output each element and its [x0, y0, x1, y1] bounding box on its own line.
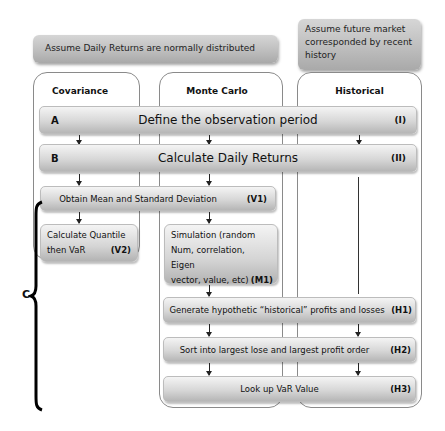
column-title-covariance: Covariance [52, 86, 139, 96]
step-b-label: Calculate Daily Returns [40, 151, 416, 165]
assumption-normal-returns-text: Assume Daily Returns are normally distri… [45, 43, 255, 53]
step-h1-generate-pl: Generate hypothetic “historical” profits… [163, 297, 416, 323]
column-title-historical: Historical [298, 86, 421, 96]
step-h3-code: (H3) [390, 384, 411, 394]
step-h3-label: Look up VaR Value [144, 384, 415, 394]
step-v2-line2: then VaR [47, 245, 85, 255]
column-title-monte-carlo: Monte Carlo [152, 86, 282, 96]
arrow-down-icon [359, 135, 360, 144]
step-m1-simulation: Simulation (random Num, correlation, Eig… [164, 224, 278, 284]
arrow-down-icon [358, 324, 359, 336]
step-h2-label: Sort into largest lose and largest profi… [134, 345, 415, 355]
arrow-down-icon [209, 363, 210, 375]
arrow-down-icon [79, 212, 80, 223]
arrow-down-icon [209, 135, 210, 144]
brace-label-c: C [22, 288, 30, 301]
arrow-down-icon [209, 212, 210, 223]
step-m1-line2: Num, correlation, Eigen [171, 243, 271, 273]
arrow-down-icon [79, 174, 80, 185]
step-v1-code: (V1) [247, 194, 267, 204]
step-m1-code: (M1) [251, 273, 273, 288]
step-h2-sort: Sort into largest lose and largest profi… [163, 337, 416, 362]
arrow-down-icon [358, 363, 359, 375]
step-m1-line3: vector, value, etc) [171, 275, 249, 285]
step-h2-code: (H2) [390, 345, 411, 355]
curly-brace-icon [28, 200, 48, 412]
step-h3-lookup-var: Look up VaR Value (H3) [163, 376, 416, 402]
arrow-down-icon [209, 324, 210, 336]
step-a-label: Define the observation period [40, 113, 416, 127]
step-a-code: (I) [394, 115, 406, 125]
assumption-normal-returns: Assume Daily Returns are normally distri… [33, 35, 278, 63]
step-v2-quantile-var: Calculate Quantile then VaR (V2) [40, 224, 138, 262]
step-m1-line1: Simulation (random [171, 228, 271, 243]
step-b-code: (II) [391, 153, 406, 163]
arrow-down-icon [209, 285, 210, 296]
assumption-historical-text: Assume future market corresponded by rec… [305, 23, 415, 62]
step-v1-mean-std: Obtain Mean and Standard Deviation (V1) [40, 186, 276, 211]
step-h1-label: Generate hypothetic “historical” profits… [139, 305, 415, 315]
arrow-down-icon [209, 174, 210, 185]
step-b-daily-returns: B Calculate Daily Returns (II) [39, 144, 417, 172]
step-h1-code: (H1) [391, 305, 412, 315]
arrow-down-icon [79, 135, 80, 144]
step-a-define-period: A Define the observation period (I) [39, 106, 417, 134]
step-v2-code: (V2) [111, 243, 131, 258]
connector-line [358, 177, 359, 294]
assumption-historical: Assume future market corresponded by rec… [298, 19, 421, 70]
step-v2-line1: Calculate Quantile [47, 228, 131, 243]
